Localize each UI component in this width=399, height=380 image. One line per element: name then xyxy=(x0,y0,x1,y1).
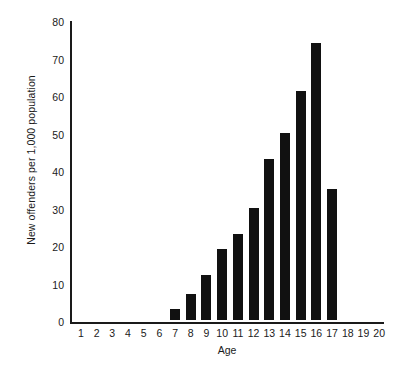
y-tick-label: 0 xyxy=(58,317,64,328)
bar xyxy=(327,189,337,320)
x-tick-label: 4 xyxy=(125,328,131,339)
x-tick-label: 11 xyxy=(232,328,243,339)
x-axis-title: Age xyxy=(70,344,384,356)
y-tick-label: 20 xyxy=(52,242,64,253)
bar xyxy=(296,91,306,320)
y-tick-label: 10 xyxy=(52,279,64,290)
x-tick-label: 3 xyxy=(109,328,115,339)
x-tick-label: 8 xyxy=(188,328,194,339)
x-tick-label: 17 xyxy=(326,328,338,339)
x-tick-label: 5 xyxy=(141,328,147,339)
y-axis-line xyxy=(70,21,72,323)
y-axis-title: New offenders per 1,000 population xyxy=(24,10,38,310)
x-tick-label: 20 xyxy=(373,328,385,339)
y-tick-label: 50 xyxy=(52,129,64,140)
x-tick-label: 13 xyxy=(263,328,275,339)
x-tick-label: 18 xyxy=(342,328,354,339)
bar xyxy=(201,275,211,320)
y-tick-label: 40 xyxy=(52,167,64,178)
bar xyxy=(217,249,227,320)
plot-area: 01020304050607080 1234567891011121314151… xyxy=(70,22,384,322)
y-tick-label: 80 xyxy=(52,17,64,28)
bar xyxy=(311,43,321,321)
x-tick-label: 15 xyxy=(295,328,307,339)
x-tick-label: 12 xyxy=(248,328,260,339)
x-tick-label: 1 xyxy=(78,328,84,339)
x-tick-label: 19 xyxy=(358,328,370,339)
bar xyxy=(186,294,196,320)
bar xyxy=(280,133,290,321)
bar xyxy=(170,309,180,320)
y-tick-label: 30 xyxy=(52,204,64,215)
x-tick-label: 16 xyxy=(311,328,323,339)
x-tick-label: 9 xyxy=(204,328,210,339)
bar xyxy=(233,234,243,320)
x-tick-label: 2 xyxy=(94,328,100,339)
bar xyxy=(264,159,274,320)
x-tick-label: 10 xyxy=(216,328,228,339)
x-tick-label: 6 xyxy=(156,328,162,339)
x-axis-line xyxy=(70,322,384,324)
x-tick-label: 7 xyxy=(172,328,178,339)
y-tick-label: 70 xyxy=(52,54,64,65)
bar xyxy=(249,208,259,321)
x-tick-label: 14 xyxy=(279,328,291,339)
bar-chart: New offenders per 1,000 population 01020… xyxy=(0,0,399,380)
y-tick-label: 60 xyxy=(52,92,64,103)
